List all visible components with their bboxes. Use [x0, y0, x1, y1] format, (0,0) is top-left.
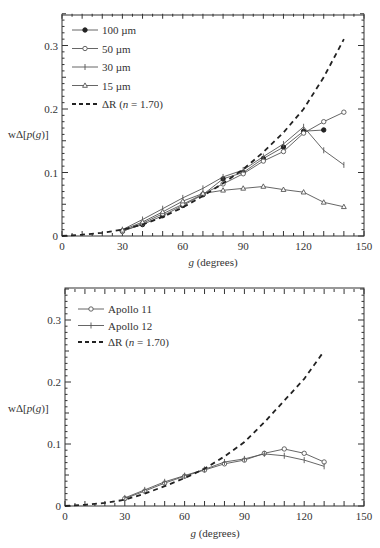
legend-label: 50 µm	[102, 43, 131, 55]
legend-label: ΔR (n = 1.70)	[102, 98, 163, 111]
y-tick-label: 0	[56, 500, 62, 512]
x-tick-label: 150	[356, 240, 373, 252]
legend-item: Apollo 11	[78, 303, 152, 315]
y-tick-label: 0	[53, 230, 59, 242]
legend-label: 15 µm	[102, 80, 131, 92]
y-axis-title: wΔ[p(g)]	[8, 128, 49, 141]
series-apollo-11	[123, 447, 327, 501]
tick-labels: 030609012015000.10.20.3	[44, 40, 373, 253]
legend-label: ΔR (n = 1.70)	[108, 336, 169, 349]
y-tick-label: 0.3	[44, 40, 58, 52]
legend-label: Apollo 12	[108, 320, 152, 332]
x-tick-label: 90	[239, 510, 251, 522]
x-tick-label: 60	[179, 510, 191, 522]
series--r-n-1-70-	[65, 351, 324, 506]
x-tick-label: 120	[295, 240, 312, 252]
x-tick-label: 30	[117, 240, 129, 252]
legend: 100 µm50 µm30 µm15 µmΔR (n = 1.70)	[72, 24, 163, 111]
series-15-m	[120, 184, 346, 232]
x-tick-label: 60	[177, 240, 189, 252]
y-tick-label: 0.1	[44, 167, 58, 179]
x-tick-label: 150	[356, 510, 373, 522]
x-axis-title: g (degrees)	[188, 256, 238, 269]
chart-bottom: 030609012015000.10.20.3 Apollo 11Apollo …	[8, 288, 373, 540]
legend-item: 30 µm	[72, 61, 131, 73]
y-tick-label: 0.2	[44, 103, 58, 115]
y-tick-label: 0.2	[47, 376, 61, 388]
tick-labels: 030609012015000.10.20.3	[47, 314, 373, 522]
y-axis-title: wΔ[p(g)]	[8, 402, 49, 415]
legend: Apollo 11Apollo 12ΔR (n = 1.70)	[78, 303, 169, 349]
x-tick-label: 30	[119, 510, 131, 522]
series-30-m	[122, 124, 344, 233]
legend-label: 30 µm	[102, 61, 131, 73]
legend-item: ΔR (n = 1.70)	[78, 336, 169, 349]
y-tick-label: 0.3	[47, 314, 61, 326]
legend-item: 15 µm	[72, 80, 131, 92]
chart-top: 030609012015000.10.20.3 100 µm50 µm30 µm…	[8, 14, 373, 269]
x-tick-label: 0	[59, 240, 65, 252]
legend-item: 50 µm	[72, 43, 131, 55]
x-axis-title: g (degrees)	[190, 527, 240, 540]
legend-item: 100 µm	[72, 24, 137, 36]
legend-item: Apollo 12	[78, 320, 152, 332]
x-tick-label: 0	[62, 510, 68, 522]
legend-label: Apollo 11	[108, 303, 152, 315]
data-series	[65, 351, 326, 506]
series-50-m	[120, 110, 346, 234]
x-tick-label: 120	[296, 510, 313, 522]
legend-label: 100 µm	[102, 24, 137, 36]
y-tick-label: 0.1	[47, 438, 61, 450]
legend-item: ΔR (n = 1.70)	[72, 98, 163, 111]
figure: 030609012015000.10.20.3 100 µm50 µm30 µm…	[0, 0, 380, 548]
series-apollo-12	[125, 451, 324, 501]
x-tick-label: 90	[238, 240, 250, 252]
